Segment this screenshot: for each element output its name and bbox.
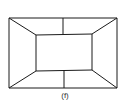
diagonal-bottom-left — [9, 71, 36, 88]
diagonal-top-right — [92, 18, 117, 34]
diagonal-top-left — [9, 18, 36, 35]
figure-label: (f) — [0, 91, 124, 100]
inner-rectangle — [36, 34, 92, 71]
diagonal-bottom-right — [92, 70, 117, 88]
